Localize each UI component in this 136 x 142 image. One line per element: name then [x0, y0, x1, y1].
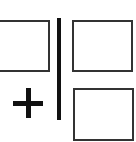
divider-line: [57, 18, 61, 120]
bottom-right-pane-rect: [73, 88, 134, 141]
left-pane-rect: [0, 20, 50, 72]
top-right-pane-rect: [72, 20, 133, 72]
add-split-pane-icon: [0, 0, 136, 142]
